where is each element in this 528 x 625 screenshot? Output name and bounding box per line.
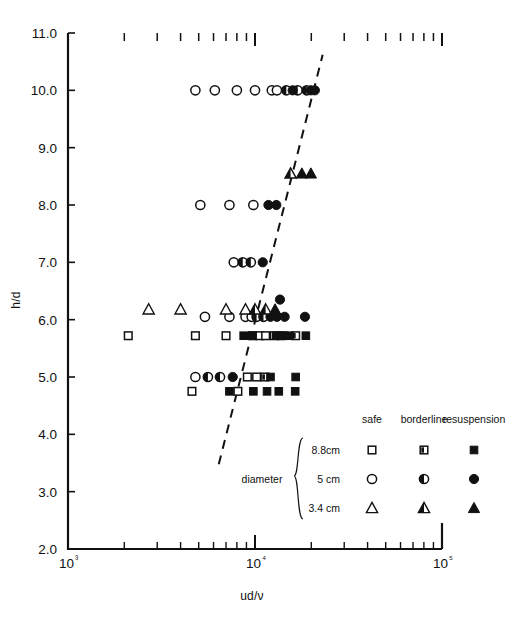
legend-column-header: safe	[362, 413, 382, 425]
legend: safeborderlineresuspensiondiameter8.8cm5…	[242, 413, 506, 519]
data-point	[280, 312, 289, 321]
data-point	[275, 295, 284, 304]
y-tick-label: 7.0	[38, 255, 57, 270]
data-point	[273, 332, 281, 340]
data-point	[124, 332, 132, 340]
data-points	[124, 86, 319, 395]
x-tick-label: 10³	[59, 553, 78, 571]
series-triangle-open	[143, 304, 251, 314]
data-point	[272, 86, 281, 95]
data-point	[228, 372, 237, 381]
data-point	[310, 86, 319, 95]
y-tick-label: 5.0	[38, 370, 57, 385]
data-point	[143, 304, 154, 314]
legend-column-header: borderline	[401, 413, 448, 425]
legend-marker	[470, 446, 478, 454]
data-point	[305, 168, 316, 178]
y-tick-label: 3.0	[38, 485, 57, 500]
legend-row-label: 8.8cm	[311, 444, 340, 456]
legend-marker	[418, 502, 429, 512]
data-point	[203, 372, 212, 381]
plot-axes	[68, 33, 442, 549]
data-point	[302, 332, 310, 340]
data-point	[229, 258, 238, 267]
y-tick-label: 6.0	[38, 313, 57, 328]
scatter-plot-figure: 10³10⁴10⁵ 2.03.04.05.06.07.08.09.010.011…	[0, 0, 528, 625]
legend-marker	[469, 474, 478, 483]
data-point	[260, 304, 271, 314]
y-tick-label: 2.0	[38, 542, 57, 557]
axis-lines	[68, 33, 442, 549]
data-point	[291, 388, 299, 396]
y-axis-title: h/d	[9, 291, 23, 308]
data-point	[191, 372, 200, 381]
data-point	[272, 200, 281, 209]
legend-marker	[366, 502, 377, 512]
data-point	[288, 86, 297, 95]
data-point	[269, 304, 280, 314]
legend-marker	[420, 446, 428, 454]
data-point	[262, 332, 270, 340]
y-tick-label: 4.0	[38, 427, 57, 442]
y-tick-label: 9.0	[38, 141, 57, 156]
legend-marker	[468, 502, 479, 512]
data-point	[300, 312, 309, 321]
data-point	[267, 373, 275, 381]
legend-row-label: 5 cm	[317, 473, 340, 485]
data-point	[244, 373, 252, 381]
plot-canvas: 10³10⁴10⁵ 2.03.04.05.06.07.08.09.010.011…	[0, 0, 528, 625]
data-point	[225, 200, 234, 209]
x-tick-label: 10⁴	[246, 553, 266, 571]
data-point	[232, 86, 241, 95]
data-point	[249, 332, 257, 340]
svg-text:³: ³	[75, 553, 78, 564]
x-axis-tick-labels: 10³10⁴10⁵	[59, 553, 453, 571]
svg-text:10: 10	[433, 556, 448, 571]
svg-text:10: 10	[59, 556, 74, 571]
data-point	[188, 388, 196, 396]
data-point	[253, 373, 261, 381]
data-point	[234, 388, 242, 396]
data-point	[292, 373, 300, 381]
svg-text:10: 10	[246, 556, 261, 571]
data-point	[258, 258, 267, 267]
x-tick-label: 10⁵	[433, 553, 453, 571]
data-point	[215, 372, 224, 381]
legend-group-label: diameter	[242, 473, 283, 485]
data-point	[246, 258, 255, 267]
y-axis-tick-labels: 2.03.04.05.06.07.08.09.010.011.0	[31, 26, 57, 557]
data-point	[222, 332, 230, 340]
data-point	[191, 86, 200, 95]
series-triangle-half	[249, 168, 296, 314]
y-tick-label: 8.0	[38, 198, 57, 213]
data-point	[249, 200, 258, 209]
data-point	[275, 388, 283, 396]
data-point	[175, 304, 186, 314]
data-point	[263, 388, 271, 396]
y-tick-label: 10.0	[31, 83, 57, 98]
legend-brace	[294, 438, 303, 519]
data-point	[250, 388, 258, 396]
data-point	[286, 332, 294, 340]
legend-marker	[419, 474, 428, 483]
data-point	[196, 200, 205, 209]
legend-marker	[368, 446, 376, 454]
y-tick-label: 11.0	[32, 26, 57, 41]
data-point	[250, 86, 259, 95]
legend-row-label: 3.4 cm	[308, 502, 340, 514]
svg-text:⁵: ⁵	[449, 553, 453, 564]
data-point	[226, 388, 234, 396]
x-axis-title: ud/ν	[240, 589, 263, 603]
legend-marker	[367, 474, 376, 483]
data-point	[220, 304, 231, 314]
axis-ticks	[68, 33, 442, 549]
series-square-open	[124, 332, 278, 395]
data-point	[240, 332, 248, 340]
series-triangle-filled	[269, 168, 316, 314]
data-point	[200, 312, 209, 321]
data-point	[210, 86, 219, 95]
legend-column-header: resuspension	[443, 413, 506, 425]
data-point	[192, 332, 200, 340]
svg-text:⁴: ⁴	[262, 553, 266, 564]
